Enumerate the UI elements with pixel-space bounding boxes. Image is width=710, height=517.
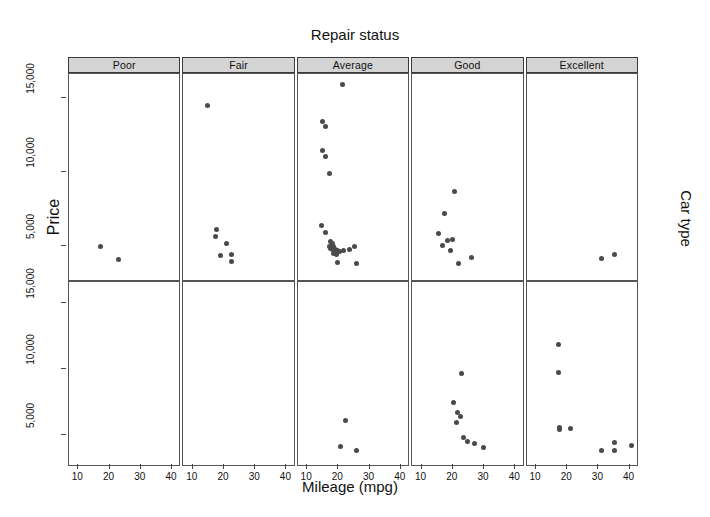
strip-label-average: Average [297,57,409,73]
y-tick: 10,000 [0,171,66,172]
x-tick-label: 30 [129,471,151,482]
x-tick: 40 [274,469,296,485]
data-point [229,252,234,257]
x-tick-label: 40 [160,471,182,482]
x-tick: 10 [66,469,88,485]
chart-title: Repair status [0,26,710,43]
data-point [224,241,229,246]
right-axis-title: Car type [678,159,695,279]
data-point [465,439,470,444]
x-tick-label: 30 [586,471,608,482]
x-tick: 10 [295,469,317,485]
y-tick: 15,000 [0,302,66,303]
y-tick: 15,000 [0,97,66,98]
x-tick-mark [369,464,370,469]
x-tick-mark [140,464,141,469]
y-tick-mark [61,434,66,435]
x-tick-mark [109,464,110,469]
x-tick: 40 [389,469,411,485]
y-tick-mark [61,97,66,98]
data-point [343,418,348,423]
x-tick-mark [514,464,515,469]
x-tick-label: 20 [326,471,348,482]
x-tick-mark [421,464,422,469]
y-tick-mark [61,302,66,303]
x-tick-label: 10 [410,471,432,482]
data-point [448,248,453,253]
data-point [218,253,223,258]
data-point [352,244,357,249]
y-tick-label: 15,000 [25,54,36,102]
x-tick-mark [597,464,598,469]
data-point [599,256,604,261]
x-tick: 10 [410,469,432,485]
data-point [452,189,457,194]
x-tick-label: 10 [524,471,546,482]
data-point [456,261,461,266]
x-tick: 10 [181,469,203,485]
data-point [612,448,617,453]
panel-good-row1 [411,281,523,466]
data-point [98,244,103,249]
data-point [440,243,445,248]
panel-average-row0 [297,73,409,281]
strip-label-fair: Fair [182,57,294,73]
data-point [556,342,561,347]
panel-poor-row1 [68,281,180,466]
data-point [458,414,463,419]
data-point [340,82,345,87]
x-tick: 30 [586,469,608,485]
strip-label-poor: Poor [68,57,180,73]
x-tick-label: 40 [503,471,525,482]
y-tick: 5,000 [0,434,66,435]
x-tick: 40 [618,469,640,485]
y-tick-mark [61,171,66,172]
x-tick: 20 [326,469,348,485]
x-tick-label: 10 [181,471,203,482]
data-point [354,261,359,266]
data-point [450,237,455,242]
x-tick-label: 30 [243,471,265,482]
data-point [459,371,464,376]
y-tick-label: 5,000 [25,203,36,251]
panel-excellent-row0 [526,73,638,281]
y-tick: 10,000 [0,368,66,369]
data-point [323,154,328,159]
data-point [320,148,325,153]
x-tick-label: 30 [358,471,380,482]
x-tick-label: 10 [66,471,88,482]
x-tick: 10 [524,469,546,485]
x-tick-label: 40 [274,471,296,482]
y-tick-label: 10,000 [25,129,36,177]
y-tick-mark [61,368,66,369]
x-tick-mark [400,464,401,469]
x-tick-label: 30 [472,471,494,482]
x-tick-mark [452,464,453,469]
data-point [341,248,346,253]
x-tick: 30 [129,469,151,485]
x-tick: 30 [472,469,494,485]
x-tick: 40 [160,469,182,485]
panel-good-row0 [411,73,523,281]
data-point [481,445,486,450]
x-tick-mark [629,464,630,469]
x-tick-mark [337,464,338,469]
data-point [629,443,634,448]
x-tick-label: 20 [212,471,234,482]
panel-poor-row0 [68,73,180,281]
data-point [205,103,210,108]
x-tick: 20 [212,469,234,485]
panel-fair-row0 [182,73,294,281]
x-tick: 40 [503,469,525,485]
data-point [323,230,328,235]
x-tick-mark [285,464,286,469]
x-tick-mark [192,464,193,469]
panel-average-row1 [297,281,409,466]
data-point [116,257,121,262]
data-point [568,426,573,431]
x-tick-label: 40 [618,471,640,482]
x-tick: 30 [358,469,380,485]
y-axis-title: Price [45,157,63,277]
data-point [436,231,441,236]
panel-excellent-row1 [526,281,638,466]
